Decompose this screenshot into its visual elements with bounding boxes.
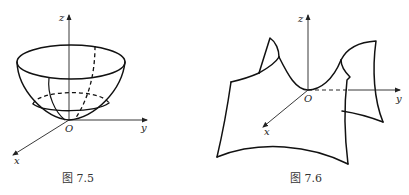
top-rim [17,45,125,79]
x-axis [13,120,69,155]
figure-caption: 图 7.5 [62,172,94,185]
y-axis-label: y [395,93,402,104]
z-axis-label: z [58,12,65,23]
bottom-edge [217,147,348,164]
figure-caption: 图 7.6 [290,172,322,185]
left-upper-edge [231,73,259,82]
left-edge [217,82,231,157]
figure-7-6: z y x O 图 7.6 [217,13,402,185]
back-meridian [75,46,95,119]
origin-label: O [65,123,73,134]
x-axis-label: x [264,126,270,137]
saddle-surface [217,38,383,164]
paraboloid-surface [17,45,125,120]
saddle-ridge [279,57,341,90]
figure-7-5: z y x O 图 7.5 [13,12,147,185]
lower-ring-back [33,93,109,104]
figures-canvas: z y x O 图 7.5 z [0,0,409,195]
y-axis-label: y [140,122,147,133]
right-flap-bottom [342,111,383,122]
z-axis-label: z [297,13,304,24]
x-axis [263,90,308,127]
origin-label: O [304,93,312,104]
x-axis-label: x [14,155,20,166]
left-peak [259,38,279,73]
